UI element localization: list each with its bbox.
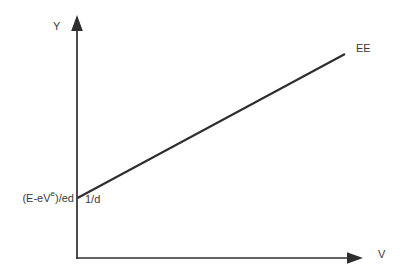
y-axis-label: Y bbox=[53, 20, 60, 33]
figure-canvas: Y V EE 1/d (E-eVe)/ed bbox=[0, 0, 405, 279]
slope-label: 1/d bbox=[85, 193, 100, 206]
intercept-suffix: )/ed bbox=[55, 192, 74, 204]
y-axis-arrowhead-icon bbox=[71, 15, 83, 31]
intercept-superscript: e bbox=[51, 189, 55, 198]
axes-plot bbox=[0, 0, 405, 279]
x-axis-label: V bbox=[378, 248, 385, 261]
intercept-label: (E-eVe)/ed bbox=[8, 192, 74, 205]
line-label: EE bbox=[356, 42, 371, 55]
plotted-line-EE bbox=[78, 54, 346, 198]
x-axis-arrowhead-icon bbox=[347, 252, 363, 263]
intercept-prefix: (E-eV bbox=[22, 192, 50, 204]
